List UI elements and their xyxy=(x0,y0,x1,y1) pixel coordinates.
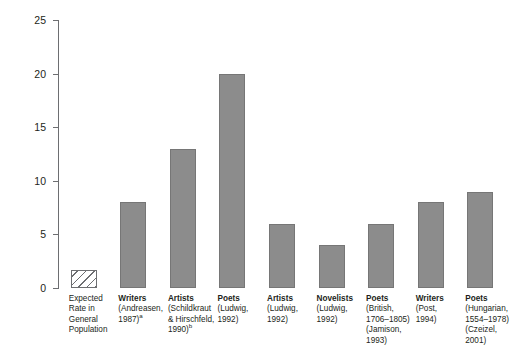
bar-slot xyxy=(319,20,345,288)
bar[interactable] xyxy=(467,192,493,288)
x-axis-label: ExpectedRate inGeneralPopulation xyxy=(69,294,125,336)
y-tick-label: 25 xyxy=(16,15,46,26)
y-axis-label: Percentage xyxy=(2,0,16,28)
x-axis-label: Artists(Ludwig,1992) xyxy=(267,294,323,325)
bar-slot xyxy=(219,20,245,288)
x-axis-label: Writers(Andreasen,1987)a xyxy=(118,294,174,325)
y-tick-mark xyxy=(53,288,58,289)
bar[interactable] xyxy=(418,202,444,288)
y-tick-mark xyxy=(53,234,58,235)
x-axis-label: Novelists(Ludwig,1992) xyxy=(317,294,373,325)
x-axis-label: Writers(Post,1994) xyxy=(416,294,472,325)
x-axis-label: Poets(Hungarian,1554–1978)(Czeizel,2001) xyxy=(465,294,511,346)
bar-slot xyxy=(467,20,493,288)
bar-slot xyxy=(269,20,295,288)
bar-slot xyxy=(71,20,97,288)
bar[interactable] xyxy=(319,245,345,288)
y-tick-mark xyxy=(53,181,58,182)
y-tick-label: 15 xyxy=(16,122,46,133)
y-tick-mark xyxy=(53,127,58,128)
y-tick-mark xyxy=(53,20,58,21)
y-tick-label: 0 xyxy=(16,283,46,294)
bar[interactable] xyxy=(170,149,196,288)
bar-slot xyxy=(120,20,146,288)
bar-chart-figure: Percentage 0510152025 ExpectedRate inGen… xyxy=(0,0,511,359)
x-axis-label: Poets(British,1706–1805)(Jamison,1993) xyxy=(366,294,422,346)
y-tick-label: 5 xyxy=(16,229,46,240)
y-tick-label: 10 xyxy=(16,176,46,187)
bar[interactable] xyxy=(219,74,245,288)
x-axis-label: Poets(Ludwig,1992) xyxy=(217,294,273,325)
y-tick-mark xyxy=(53,74,58,75)
x-axis-label: Artists(Schildkraut& Hirschfeld,1990)b xyxy=(168,294,224,336)
y-tick-label: 20 xyxy=(16,69,46,80)
bar-slot xyxy=(170,20,196,288)
bar[interactable] xyxy=(368,224,394,288)
bars-group xyxy=(59,20,505,288)
bar[interactable] xyxy=(71,270,97,288)
bar[interactable] xyxy=(269,224,295,288)
bar[interactable] xyxy=(120,202,146,288)
bar-slot xyxy=(368,20,394,288)
x-axis-labels: ExpectedRate inGeneralPopulationWriters(… xyxy=(59,294,505,358)
bar-slot xyxy=(418,20,444,288)
